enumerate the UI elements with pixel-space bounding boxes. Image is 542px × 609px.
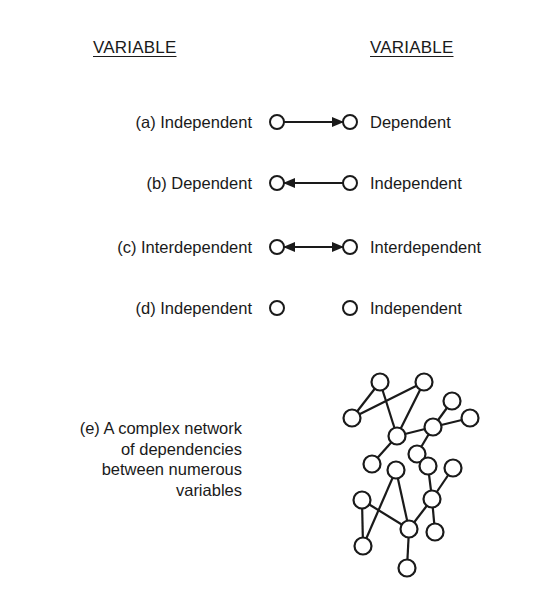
network-node-K-icon — [420, 458, 437, 475]
row-b-left-node-icon — [270, 176, 284, 190]
network-node-N-icon — [424, 491, 441, 508]
network-node-R-icon — [399, 560, 416, 577]
network-node-E-icon — [425, 419, 442, 436]
network-node-O-icon — [401, 521, 418, 538]
network-node-F-icon — [444, 393, 461, 410]
network-node-Q-icon — [355, 538, 372, 555]
network-node-B-icon — [416, 374, 433, 391]
network-node-A-icon — [372, 374, 389, 391]
variable-pair-rows — [270, 115, 357, 315]
row-b-right-node-icon — [343, 176, 357, 190]
row-c-left-node-icon — [270, 240, 284, 254]
network-node-C-icon — [344, 410, 361, 427]
row-c-right-node-icon — [343, 240, 357, 254]
network-node-J-icon — [388, 462, 405, 479]
network-node-G-icon — [462, 410, 479, 427]
network-node-I-icon — [364, 456, 381, 473]
row-a-left-node-icon — [270, 115, 284, 129]
row-a-right-node-icon — [343, 115, 357, 129]
network-node-M-icon — [354, 492, 371, 509]
edge-B-C — [352, 382, 424, 418]
network-node-D-icon — [389, 428, 406, 445]
dependency-diagram — [0, 0, 542, 609]
edge-J-Q — [363, 470, 396, 546]
network-node-P-icon — [427, 524, 444, 541]
row-d-right-node-icon — [343, 301, 357, 315]
network-node-L-icon — [445, 460, 462, 477]
row-d-left-node-icon — [270, 301, 284, 315]
